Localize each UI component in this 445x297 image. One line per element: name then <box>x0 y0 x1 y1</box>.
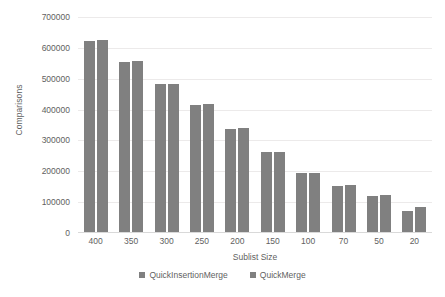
bar-group <box>361 17 396 233</box>
y-tick-label: 500000 <box>42 74 70 84</box>
bar <box>190 105 201 233</box>
bar <box>415 207 426 233</box>
axis-baseline <box>78 232 432 233</box>
bar-group <box>290 17 325 233</box>
y-tick-label: 400000 <box>42 105 70 115</box>
x-tick-label: 100 <box>290 236 325 246</box>
bar-group <box>397 17 432 233</box>
x-tick-label: 200 <box>220 236 255 246</box>
x-tick-label: 150 <box>255 236 290 246</box>
legend-label: QuickMerge <box>260 270 306 280</box>
bar-group <box>113 17 148 233</box>
bar <box>402 211 413 233</box>
x-tick-label: 50 <box>361 236 396 246</box>
legend: QuickInsertionMergeQuickMerge <box>0 270 445 280</box>
bar <box>367 196 378 233</box>
bar <box>332 186 343 233</box>
bar <box>97 40 108 233</box>
x-tick-label: 20 <box>397 236 432 246</box>
bar <box>345 185 356 233</box>
bar-chart: Comparisons 7000006000005000004000003000… <box>0 0 445 297</box>
bar <box>261 152 272 233</box>
y-tick-label: 700000 <box>42 12 70 22</box>
x-axis-tick-labels: 400350300250200150100705020 <box>78 236 432 246</box>
bar <box>225 129 236 233</box>
y-tick-label: 0 <box>65 228 70 238</box>
x-axis-title: Sublist Size <box>78 252 432 262</box>
bar <box>309 173 320 233</box>
y-tick-label: 300000 <box>42 135 70 145</box>
x-tick-label: 300 <box>149 236 184 246</box>
x-tick-label: 350 <box>113 236 148 246</box>
legend-item[interactable]: QuickMerge <box>250 270 306 280</box>
bar <box>238 128 249 233</box>
bar-group <box>78 17 113 233</box>
bar <box>132 61 143 233</box>
y-tick-label: 200000 <box>42 166 70 176</box>
bar <box>119 62 130 233</box>
y-tick-label: 600000 <box>42 43 70 53</box>
bar-group <box>326 17 361 233</box>
y-tick-label: 100000 <box>42 197 70 207</box>
legend-swatch-icon <box>250 272 256 278</box>
bar-group <box>220 17 255 233</box>
bar <box>380 195 391 233</box>
legend-item[interactable]: QuickInsertionMerge <box>139 270 227 280</box>
bar-group <box>149 17 184 233</box>
y-axis-tick-labels: 7000006000005000004000003000002000001000… <box>0 17 72 233</box>
bar-group <box>184 17 219 233</box>
x-tick-label: 400 <box>78 236 113 246</box>
bar-group <box>255 17 290 233</box>
x-tick-label: 250 <box>184 236 219 246</box>
bar <box>203 104 214 233</box>
legend-label: QuickInsertionMerge <box>149 270 227 280</box>
plot-area <box>78 17 432 233</box>
bar-groups <box>78 17 432 233</box>
bar <box>155 84 166 233</box>
legend-swatch-icon <box>139 272 145 278</box>
bar <box>296 173 307 233</box>
bar <box>168 84 179 233</box>
bar <box>84 41 95 233</box>
x-tick-label: 70 <box>326 236 361 246</box>
bar <box>274 152 285 233</box>
